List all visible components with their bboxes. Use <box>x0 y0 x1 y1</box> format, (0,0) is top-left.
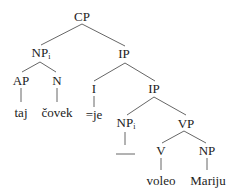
leaf-covek: čovek <box>41 106 72 119</box>
edge-cp-np <box>41 24 82 45</box>
node-ip-low: IP <box>148 82 160 95</box>
node-i-label: I <box>92 81 96 96</box>
node-i: I <box>92 82 96 95</box>
node-cp-label: CP <box>74 9 90 24</box>
leaf-covek-label: čovek <box>41 105 72 120</box>
edge-vp-np <box>184 131 206 143</box>
leaf-je: =je <box>86 108 103 121</box>
node-ap-label: AP <box>13 73 30 88</box>
node-vp-label: VP <box>178 116 195 131</box>
edge-ip-np-trace <box>127 97 154 115</box>
edge-ip-vp <box>154 97 186 115</box>
node-np-trace-index: i <box>133 122 135 131</box>
node-np-subject-index: i <box>48 52 50 61</box>
node-ap: AP <box>13 74 30 87</box>
node-np-object: NP <box>199 144 216 157</box>
node-vp: VP <box>178 117 195 130</box>
edge-np-ap <box>22 62 40 72</box>
edge-ip-ip <box>125 63 155 81</box>
node-np-subject: NPi <box>32 46 51 61</box>
leaf-mariju-label: Mariju <box>190 173 225 188</box>
node-np-trace: NPi <box>117 116 136 131</box>
edge-np-n <box>40 62 56 72</box>
node-ip-top: IP <box>118 47 130 60</box>
node-ip-low-label: IP <box>148 81 160 96</box>
node-np-trace-label: NP <box>117 115 134 130</box>
edge-cp-ip <box>82 24 125 46</box>
leaf-taj: taj <box>15 106 28 119</box>
leaf-voleo-label: voleo <box>147 173 176 188</box>
node-v: V <box>156 144 165 157</box>
node-cp: CP <box>74 10 90 23</box>
edge-ip-i <box>94 63 125 81</box>
leaf-taj-label: taj <box>15 105 28 120</box>
node-ip-top-label: IP <box>118 46 130 61</box>
node-n: N <box>52 74 61 87</box>
edge-vp-v <box>162 131 184 143</box>
node-np-subject-label: NP <box>32 45 49 60</box>
syntax-tree-edges <box>0 0 230 191</box>
leaf-voleo: voleo <box>147 174 176 187</box>
node-n-label: N <box>52 73 61 88</box>
node-v-label: V <box>156 143 165 158</box>
leaf-mariju: Mariju <box>190 174 225 187</box>
leaf-je-label: =je <box>86 107 103 122</box>
node-np-object-label: NP <box>199 143 216 158</box>
